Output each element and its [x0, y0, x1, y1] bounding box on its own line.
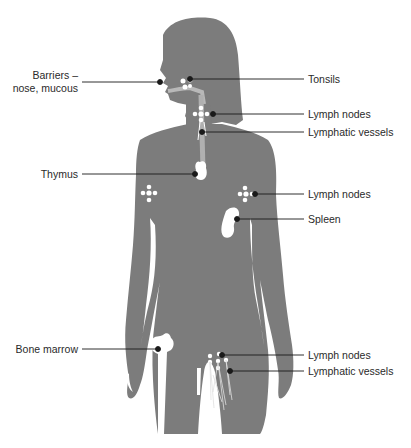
- bone-marrow-label: Bone marrow: [10, 343, 78, 356]
- spleen-label: Spleen: [308, 213, 341, 226]
- thymus-label: Thymus: [10, 168, 78, 181]
- armpit-lymph-nodes-label: Lymph nodes: [308, 188, 371, 201]
- thymus-icon: [195, 161, 207, 180]
- barriers-label-line2: nose, mucous: [10, 82, 78, 95]
- body-silhouette-figure: [0, 0, 411, 448]
- neck-lymphatic-vessels-label: Lymphatic vessels: [308, 126, 393, 139]
- neck-lymph-nodes-label: Lymph nodes: [308, 108, 371, 121]
- barriers-label-line1: Barriers –: [10, 69, 78, 82]
- groin-lymph-nodes-label: Lymph nodes: [308, 349, 371, 362]
- barriers-label: Barriers – nose, mucous: [10, 69, 78, 95]
- tonsils-label: Tonsils: [308, 73, 340, 86]
- leg-lymphatic-vessels-label: Lymphatic vessels: [308, 365, 393, 378]
- immune-system-diagram: Barriers – nose, mucous Thymus Bone marr…: [0, 0, 411, 448]
- female-body-silhouette: [125, 18, 293, 434]
